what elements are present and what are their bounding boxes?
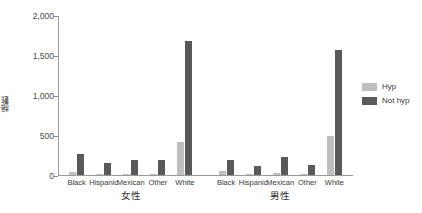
bar-chart: 頻數 05001,0001,5002,000 BlackHispanicMexi… <box>0 0 422 213</box>
x-axis-group-labels: 女性男性 <box>59 190 352 204</box>
x-axis-tick-label: Black <box>67 178 85 187</box>
y-axis-tick-label: 2,000 <box>12 12 54 21</box>
x-axis-tick-label: Hispanic <box>239 178 268 187</box>
legend-item[interactable]: Not hyp <box>362 95 420 106</box>
x-axis-line <box>58 175 353 176</box>
x-axis-tick-label: White <box>175 178 194 187</box>
bar <box>158 160 165 176</box>
y-axis-tick-label: 1,500 <box>12 52 54 61</box>
bar <box>335 50 342 176</box>
x-axis-tick-label: White <box>325 178 344 187</box>
bar <box>281 157 288 176</box>
y-axis-tick <box>54 176 58 177</box>
y-axis-tick-labels: 05001,0001,5002,000 <box>12 0 54 213</box>
x-axis-tick-label: Other <box>148 178 167 187</box>
bar <box>131 160 138 176</box>
y-axis-tick-label: 1,000 <box>12 92 54 101</box>
plot-area <box>59 16 352 176</box>
x-axis-tick-labels: BlackHispanicMexicanOtherWhiteBlackHispa… <box>59 178 352 190</box>
x-axis-tick-label: Other <box>298 178 317 187</box>
legend-swatch <box>362 83 377 91</box>
x-axis-tick-label: Mexican <box>266 178 294 187</box>
bar <box>227 160 234 176</box>
bar <box>177 142 184 176</box>
x-axis-group-label: 男性 <box>270 190 290 202</box>
legend-label: Not hyp <box>382 96 410 105</box>
y-axis-tick-label: 500 <box>12 132 54 141</box>
bar <box>185 41 192 176</box>
x-axis-tick-label: Mexican <box>117 178 145 187</box>
x-axis-group-label: 女性 <box>121 190 141 202</box>
x-axis-tick-label: Hispanic <box>89 178 118 187</box>
y-axis-tick-label: 0 <box>12 172 54 181</box>
legend-item[interactable]: Hyp <box>362 81 420 92</box>
legend: HypNot hyp <box>362 81 420 109</box>
bar <box>327 136 334 176</box>
x-axis-tick-label: Black <box>217 178 235 187</box>
legend-swatch <box>362 97 377 105</box>
bar <box>77 154 84 176</box>
legend-label: Hyp <box>382 82 396 91</box>
